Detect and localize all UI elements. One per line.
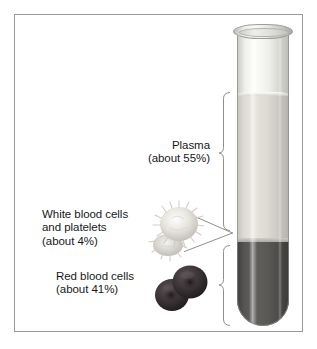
blood-composition-figure: Plasma (about 55%) White blood cells and… bbox=[0, 0, 317, 349]
label-white-blood-cells: White blood cells and platelets (about 4… bbox=[42, 208, 128, 248]
red-blood-cell-illustration bbox=[153, 262, 211, 316]
glass-highlight-right bbox=[278, 32, 282, 326]
label-plasma: Plasma (about 55%) bbox=[118, 139, 210, 166]
test-tube-rim bbox=[233, 24, 293, 39]
test-tube-glass-body bbox=[237, 32, 289, 326]
white-blood-cell-illustration bbox=[148, 200, 206, 262]
label-wbc-line2: and platelets bbox=[42, 221, 128, 234]
label-wbc-line1: White blood cells bbox=[42, 208, 128, 221]
label-wbc-line3: (about 4%) bbox=[42, 235, 128, 248]
label-plasma-line1: Plasma bbox=[118, 139, 210, 152]
glass-highlight-left bbox=[249, 32, 257, 326]
label-rbc-line1: Red blood cells bbox=[56, 270, 134, 283]
label-rbc-line2: (about 41%) bbox=[56, 283, 134, 296]
test-tube-rim-opening bbox=[239, 28, 289, 37]
test-tube bbox=[233, 24, 293, 328]
label-red-blood-cells: Red blood cells (about 41%) bbox=[56, 270, 134, 297]
label-plasma-line2: (about 55%) bbox=[118, 152, 210, 165]
